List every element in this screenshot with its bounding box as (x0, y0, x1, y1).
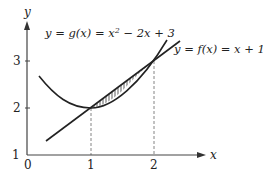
x-axis-label: x (210, 149, 217, 161)
g-equation-label: y = g(x) = x2 − 2x + 3 (45, 27, 175, 40)
g-label-suffix: − 2x + 3 (120, 26, 175, 40)
line-f (46, 41, 180, 141)
tick-label-0: 0 (24, 159, 32, 171)
x-axis-arrow-icon (197, 152, 206, 158)
tick-label-x1: 1 (87, 159, 95, 171)
f-equation-label: y = f(x) = x + 1 (174, 44, 263, 56)
tick-label-y2: 2 (13, 102, 21, 114)
g-label-prefix: y = g(x) = x (45, 26, 115, 40)
tick-label-y3: 3 (13, 55, 21, 67)
y-axis-label: y (24, 6, 31, 18)
tick-label-y1: 1 (12, 149, 20, 161)
y-axis-arrow-icon (24, 21, 30, 30)
tick-label-x2: 2 (150, 159, 158, 171)
